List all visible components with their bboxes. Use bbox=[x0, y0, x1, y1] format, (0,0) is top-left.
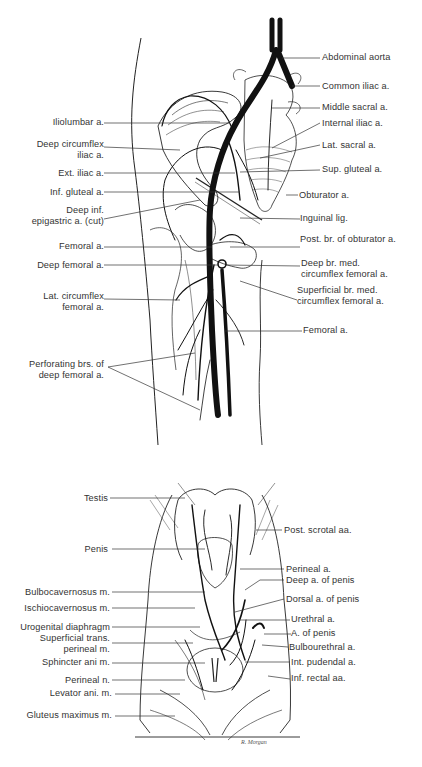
label-abdominal-aorta: Abdominal aorta bbox=[322, 52, 390, 63]
label-post-br-obturator: Post. br. of obturator a. bbox=[300, 234, 396, 245]
anatomy-illustration: Iliolumbar a. Deep circumflex iliac a. E… bbox=[0, 0, 422, 767]
label-sphincter-ani: Sphincter ani m. bbox=[42, 657, 110, 668]
label-urogenital-diaphragm: Urogenital diaphragm bbox=[20, 622, 110, 633]
label-gluteus-maximus: Gluteus maximus m. bbox=[26, 710, 112, 721]
label-inguinal-lig: Inguinal lig. bbox=[300, 213, 348, 224]
label-internal-iliac: Internal iliac a. bbox=[322, 118, 383, 129]
label-urethral: Urethral a. bbox=[291, 614, 335, 625]
label-inf-rectal: Inf. rectal aa. bbox=[291, 673, 346, 684]
label-post-scrotal: Post. scrotal aa. bbox=[284, 525, 352, 536]
label-deep-a-penis: Deep a. of penis bbox=[286, 575, 355, 586]
label-superficial-br-med-circumflex: Superficial br. med. circumflex femoral … bbox=[297, 285, 384, 306]
label-levator-ani: Levator ani. m. bbox=[50, 688, 112, 699]
label-obturator: Obturator a. bbox=[299, 190, 349, 201]
label-common-iliac: Common iliac a. bbox=[322, 81, 389, 92]
label-deep-inf-epigastric: Deep inf. epigastric a. (cut) bbox=[32, 205, 104, 226]
label-ischiocavernosus: Ischiocavernosus m. bbox=[24, 603, 110, 614]
artist-signature: R. Morgan bbox=[241, 739, 267, 745]
label-a-of-penis: A. of penis bbox=[291, 628, 336, 639]
label-lat-circumflex-femoral: Lat. circumflex femoral a. bbox=[43, 291, 104, 312]
label-perineal-n: Perineal n. bbox=[65, 675, 110, 686]
label-int-pudendal: Int. pudendal a. bbox=[291, 657, 356, 668]
label-perforating-brs: Perforating brs. of deep femoral a. bbox=[29, 359, 104, 380]
label-penis: Penis bbox=[85, 544, 108, 555]
label-deep-circumflex-iliac: Deep circumflex iliac a. bbox=[37, 139, 104, 160]
label-bulbourethral: Bulbourethral a. bbox=[289, 642, 355, 653]
label-bulbocavernosus: Bulbocavernosus m. bbox=[25, 587, 110, 598]
label-deep-femoral: Deep femoral a. bbox=[37, 260, 104, 271]
label-perineal-a: Perineal a. bbox=[286, 564, 331, 575]
label-dorsal-a-penis: Dorsal a. of penis bbox=[286, 594, 359, 605]
label-femoral-right: Femoral a. bbox=[303, 325, 348, 336]
label-iliolumbar: Iliolumbar a. bbox=[53, 117, 104, 128]
label-testis: Testis bbox=[84, 493, 108, 504]
label-middle-sacral: Middle sacral a. bbox=[322, 102, 388, 113]
label-superficial-trans-perineal: Superficial trans. perineal m. bbox=[40, 633, 110, 654]
label-sup-gluteal: Sup. gluteal a. bbox=[322, 164, 382, 175]
label-inf-gluteal: Inf. gluteal a. bbox=[50, 187, 104, 198]
label-lat-sacral: Lat. sacral a. bbox=[322, 140, 376, 151]
label-ext-iliac: Ext. iliac a. bbox=[58, 168, 104, 179]
label-deep-br-med-circumflex: Deep br. med. circumflex femoral a. bbox=[301, 258, 388, 279]
label-femoral-left: Femoral a. bbox=[59, 241, 104, 252]
